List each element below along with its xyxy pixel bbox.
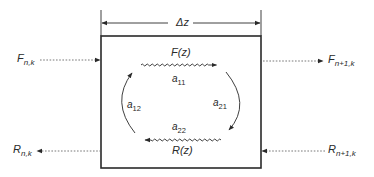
forward-wave [141,64,217,66]
delta-z-label: Δz [176,17,189,28]
coefficient-a22: a22 [172,122,186,135]
coefficient-a12: a12 [127,100,141,113]
reverse-input-label: Rn+1,k [328,144,356,158]
coefficient-a21: a21 [213,98,227,111]
forward-wave-label: F(z) [171,47,191,58]
forward-input-label: Fn,k [17,53,34,67]
forward-output-label: Fn+1,k [328,54,355,68]
reverse-output-label: Rn,k [13,144,32,158]
reverse-wave [145,139,221,141]
coupling-arrow-a21 [226,72,240,130]
coefficient-a11: a11 [172,74,185,87]
reverse-wave-label: R(z) [172,145,193,156]
